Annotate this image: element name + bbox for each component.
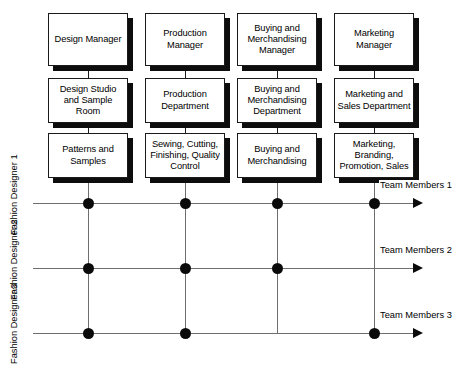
- team-label-1: Team Members 1: [379, 180, 443, 191]
- intersection-dot-fd3-production: [180, 328, 191, 339]
- node-label: Design Studio and Sample Room: [51, 84, 125, 118]
- node-design-manager: Design Manager: [48, 13, 128, 66]
- node-design-function: Patterns and Samples: [48, 133, 128, 178]
- intersection-dot-fd3-marketing: [369, 328, 380, 339]
- node-production-function: Sewing, Cutting, Finishing, Quality Cont…: [145, 133, 225, 178]
- node-production-department: Production Department: [145, 78, 225, 123]
- node-design-department: Design Studio and Sample Room: [48, 78, 128, 123]
- team-label-3: Team Members 3: [379, 310, 443, 321]
- team-label-2: Team Members 2: [379, 245, 443, 256]
- row-label-fashion-designer-3: Fashion Designer 3: [9, 302, 20, 364]
- node-label: Buying and Merchandising Manager: [240, 23, 314, 57]
- node-label: Marketing Manager: [337, 28, 411, 50]
- arrow-head-fd1: [413, 198, 423, 208]
- node-marketing-department: Marketing and Sales Department: [334, 78, 414, 123]
- node-label: Patterns and Samples: [51, 144, 125, 166]
- node-marketing-manager: Marketing Manager: [334, 13, 414, 66]
- intersection-dot-fd1-marketing: [369, 198, 380, 209]
- node-label: Marketing and Sales Department: [337, 89, 411, 111]
- team-label-text: Team Members 3: [380, 310, 442, 321]
- arrow-head-fd3: [413, 328, 423, 338]
- node-label: Production Manager: [148, 28, 222, 50]
- node-label: Marketing, Branding, Promotion, Sales: [337, 139, 411, 173]
- node-label: Design Manager: [51, 34, 125, 45]
- arrow-head-fd2: [413, 263, 423, 273]
- intersection-dot-fd1-design: [83, 198, 94, 209]
- intersection-dot-fd2-production: [180, 263, 191, 274]
- intersection-dot-fd1-buying: [272, 198, 283, 209]
- matrix-organisation-diagram: Design Manager Design Studio and Sample …: [0, 0, 462, 365]
- node-label: Sewing, Cutting, Finishing, Quality Cont…: [148, 139, 222, 173]
- node-marketing-function: Marketing, Branding, Promotion, Sales: [334, 133, 414, 178]
- intersection-dot-fd2-design: [83, 263, 94, 274]
- intersection-dot-fd2-buying: [272, 263, 283, 274]
- row-label-text: Fashion Designer 3: [9, 302, 20, 364]
- node-buying-department: Buying and Merchandising Department: [237, 78, 317, 123]
- team-label-text: Team Members 2: [380, 245, 442, 256]
- node-production-manager: Production Manager: [145, 13, 225, 66]
- intersection-dot-fd3-design: [83, 328, 94, 339]
- intersection-dot-fd1-production: [180, 198, 191, 209]
- team-label-text: Team Members 1: [380, 180, 442, 191]
- node-buying-function: Buying and Merchandising: [237, 133, 317, 178]
- node-buying-manager: Buying and Merchandising Manager: [237, 13, 317, 66]
- node-label: Production Department: [148, 89, 222, 111]
- node-label: Buying and Merchandising: [240, 144, 314, 166]
- node-label: Buying and Merchandising Department: [240, 84, 314, 118]
